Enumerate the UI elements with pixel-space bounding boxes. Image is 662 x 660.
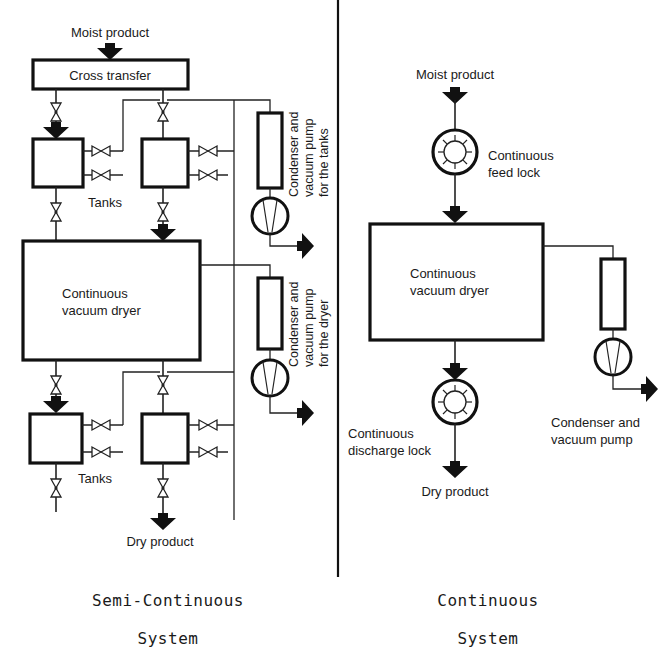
tank-vent-valve-icon [199, 170, 217, 180]
svg-text:vacuum pump: vacuum pump [302, 288, 316, 367]
condenser-dryer [258, 278, 282, 349]
svg-text:vacuum pump: vacuum pump [302, 118, 316, 197]
dryer-inlet-arrow-icon [150, 224, 176, 241]
exhaust-arrow-tanks-icon [297, 233, 314, 259]
lower-outlet-valve-right-icon [158, 479, 168, 497]
feed-valve-right-icon [158, 103, 168, 121]
continuous-discharge-lock-icon [433, 380, 477, 424]
tank-vent-valve-icon [199, 447, 217, 457]
svg-text:for the tanks: for the tanks [317, 128, 331, 197]
tank-vacuum-valve-icon [92, 146, 110, 156]
exhaust-arrow-dryer-icon [297, 400, 314, 426]
semi-continuous-caption-line2: System [138, 629, 199, 648]
tank-pump-label: Condenser and vacuum pump for the tanks [287, 111, 331, 197]
dryer-label-line2: vacuum dryer [62, 303, 141, 318]
lower-tank-inlet-arrow-icon [43, 396, 69, 413]
dryer-label-right-line2: vacuum dryer [410, 283, 489, 298]
semi-continuous-system: Moist product Cross transfer [23, 25, 331, 648]
tank-inlet-arrow-left-icon [43, 122, 69, 139]
vacuum-pump-dryer-icon [252, 360, 288, 396]
upper-tank-right [142, 139, 188, 187]
tanks-lower-label: Tanks [78, 471, 112, 486]
dryer-inlet-arrow-right-icon [442, 206, 468, 223]
semi-continuous-caption-line1: Semi-Continuous [92, 591, 244, 610]
continuous-vacuum-dryer-box: Continuous vacuum dryer [23, 241, 200, 360]
feed-lock-label-line1: Continuous [488, 148, 554, 163]
feed-lock-label-line2: feed lock [488, 165, 541, 180]
exhaust-arrow-right-icon [641, 376, 658, 402]
moist-product-label: Moist product [71, 25, 149, 40]
continuous-feed-lock-icon [433, 130, 477, 174]
dryer-outlet-valve-left-icon [51, 376, 61, 394]
dry-product-arrow-right-icon [442, 461, 468, 478]
continuous-caption-line2: System [458, 629, 519, 648]
pump-label-right-line1: Condenser and [551, 415, 640, 430]
dry-product-label: Dry product [126, 534, 194, 549]
discharge-lock-label-line1: Continuous [348, 426, 414, 441]
dryer-pump-label: Condenser and vacuum pump for the dryer [287, 281, 331, 367]
moist-product-label-right: Moist product [416, 67, 494, 82]
continuous-vacuum-dryer-box-right: Continuous vacuum dryer [370, 224, 543, 340]
tank-vent-valve-icon [92, 447, 110, 457]
tank-vacuum-valve-icon [92, 420, 110, 430]
discharge-inlet-arrow-icon [442, 363, 468, 380]
continuous-system: Moist product Continuous feed lock Conti… [348, 67, 658, 648]
tanks-upper-label: Tanks [88, 195, 122, 210]
vacuum-pump-tanks-icon [252, 198, 288, 234]
dry-product-arrow-icon [150, 513, 176, 530]
tank-vacuum-valve-icon [199, 146, 217, 156]
svg-text:for the dryer: for the dryer [317, 300, 331, 367]
upper-tank-left [33, 139, 83, 187]
continuous-caption-line1: Continuous [437, 591, 538, 610]
condenser-right [601, 259, 625, 329]
tank-vacuum-valve-icon [199, 420, 217, 430]
vacuum-pump-right-icon [595, 339, 631, 375]
pump-label-right-line2: vacuum pump [551, 432, 633, 447]
lower-tank-right [142, 414, 188, 463]
feed-valve-left-icon [51, 103, 61, 121]
lower-tank-left [30, 414, 82, 463]
tank-outlet-valve-right-icon [158, 203, 168, 221]
svg-text:Condenser and: Condenser and [287, 111, 301, 197]
dryer-label-line1: Continuous [62, 286, 128, 301]
dry-product-label-right: Dry product [421, 484, 489, 499]
dryer-outlet-valve-right-icon [158, 376, 168, 394]
cross-transfer-box: Cross transfer [33, 60, 188, 89]
svg-text:Condenser and: Condenser and [287, 281, 301, 367]
cross-transfer-label: Cross transfer [69, 68, 151, 83]
discharge-lock-label-line2: discharge lock [348, 443, 432, 458]
lower-outlet-valve-left-icon [51, 479, 61, 497]
tank-vent-valve-icon [92, 170, 110, 180]
process-diagram: Moist product Cross transfer [0, 0, 662, 660]
dryer-label-right-line1: Continuous [410, 266, 476, 281]
condenser-tanks [258, 113, 282, 188]
tank-outlet-valve-left-icon [51, 203, 61, 221]
inlet-arrow-icon [97, 43, 123, 60]
